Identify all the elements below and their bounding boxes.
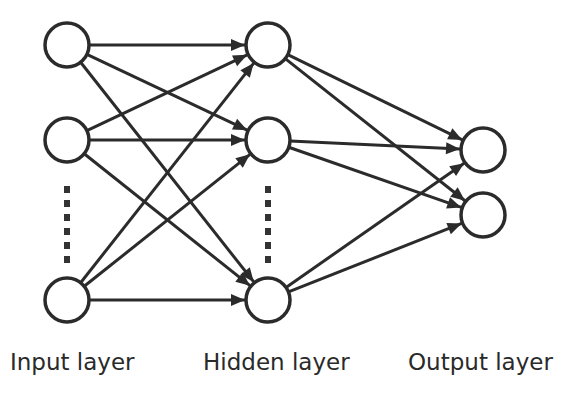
input-ellipsis-dot — [64, 200, 70, 207]
arrowhead-icon — [446, 142, 460, 154]
connection-edges — [81, 39, 465, 306]
hidden-ellipsis-dot — [265, 200, 271, 207]
output-node-o2 — [461, 193, 505, 237]
arrowhead-icon — [231, 39, 245, 51]
hidden-node-h3 — [246, 278, 290, 322]
input-node-i2 — [45, 118, 89, 162]
hidden-node-h2 — [246, 118, 290, 162]
arrowhead-icon — [446, 223, 461, 234]
input-node-i3 — [45, 278, 89, 322]
arrowhead-icon — [231, 294, 245, 306]
hidden-ellipsis-dot — [265, 256, 271, 263]
edge-h3-o2 — [288, 223, 461, 291]
input-ellipsis-dot — [64, 242, 70, 249]
hidden-ellipsis-dot — [265, 186, 271, 193]
input-ellipsis-dot — [64, 214, 70, 221]
arrowhead-icon — [231, 134, 245, 146]
hidden-ellipsis-dot — [265, 228, 271, 235]
neural-network-diagram — [0, 0, 581, 395]
edge-h2-o1 — [290, 141, 460, 149]
hidden-layer-label: Hidden layer — [203, 349, 350, 375]
arrowhead-icon — [449, 163, 464, 176]
input-ellipsis-dot — [64, 228, 70, 235]
input-ellipsis-dot — [64, 256, 70, 263]
input-ellipsis-dot — [64, 186, 70, 193]
output-node-o1 — [461, 128, 505, 172]
hidden-node-h1 — [246, 23, 290, 67]
hidden-ellipsis-dot — [265, 242, 271, 249]
input-node-i1 — [45, 23, 89, 67]
input-layer-label: Input layer — [10, 349, 135, 375]
output-layer-label: Output layer — [408, 349, 553, 375]
edge-h3-o1 — [286, 163, 464, 287]
layer-ellipsis-dots — [64, 186, 271, 263]
hidden-ellipsis-dot — [265, 214, 271, 221]
edge-h1-o1 — [288, 55, 463, 140]
